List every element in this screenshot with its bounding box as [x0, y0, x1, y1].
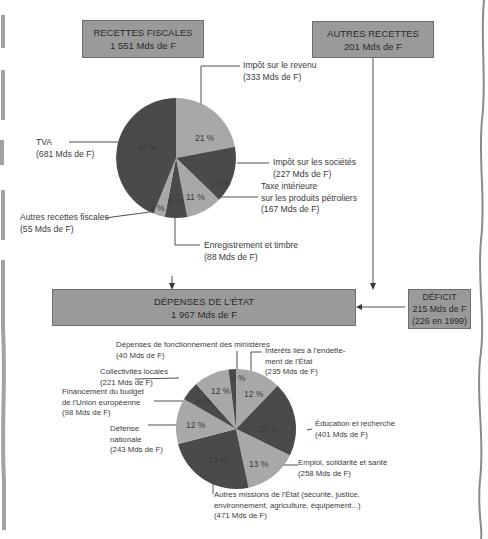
fiscal-revenue-box: RECETTES FISCALES 1 551 Mds de F [82, 20, 204, 58]
svg-text:12 %: 12 % [186, 420, 206, 430]
other-revenue-value: 201 Mds de F [313, 40, 433, 53]
label-debt-interest: Intérêts liés à l'endette-ment de l'État… [265, 346, 345, 378]
other-revenue-box: AUTRES RECETTES 201 Mds de F [312, 21, 434, 58]
deficit-title: DÉFICIT [409, 291, 470, 303]
label-income-tax: Impôt sur le revenu(333 Mds de F) [243, 60, 317, 83]
svg-text:20 %: 20 % [259, 424, 279, 434]
state-expenses-box: DÉPENSES DE L'ÉTAT 1 967 Mds de F [52, 289, 356, 326]
label-fuel-tax: Taxe intérieuresur les produits pétrolie… [261, 181, 357, 216]
svg-text:12 %: 12 % [244, 389, 264, 399]
fiscal-revenue-value: 1 551 Mds de F [83, 39, 203, 52]
label-other-missions: Autres missions de l'État (sécurité, jus… [214, 490, 361, 522]
svg-text:2 %: 2 % [231, 373, 246, 383]
label-education: Éducation et recherche(401 Mds de F) [315, 419, 395, 440]
label-employment: Emploi, solidarité et santé(258 Mds de F… [298, 458, 387, 479]
label-vat: TVA(681 Mds de F) [36, 137, 94, 160]
label-local-authorities: Collectivités locales(221 Mds de F) [100, 367, 168, 388]
fiscal-revenue-title: RECETTES FISCALES [83, 26, 203, 39]
deficit-box: DÉFICIT 215 Mds de F (226 en 1999) [408, 289, 471, 329]
label-defense: Défensenationale(243 Mds de F) [110, 424, 163, 456]
svg-text:13 %: 13 % [249, 459, 269, 469]
svg-text:24 %: 24 % [208, 455, 228, 465]
label-registration: Enregistrement et timbre(88 Mds de F) [204, 240, 298, 263]
label-corporate-tax: Impôt sur les sociétés(227 Mds de F) [273, 157, 356, 180]
deficit-value: 215 Mds de F [409, 303, 470, 315]
state-expenses-value: 1 967 Mds de F [53, 308, 355, 321]
label-ministries: Dépenses de fonctionnement des ministère… [116, 340, 270, 361]
label-eu-budget: Financement du budgetde l'Union européen… [62, 387, 144, 419]
svg-text:5 %: 5 % [196, 396, 211, 406]
state-expenses-title: DÉPENSES DE L'ÉTAT [53, 295, 355, 308]
other-revenue-title: AUTRES RECETTES [313, 27, 433, 40]
svg-text:12 %: 12 % [211, 386, 231, 396]
deficit-note: (226 en 1999) [409, 315, 470, 327]
label-other-fiscal: Autres recettes fiscales(55 Mds de F) [20, 212, 109, 235]
